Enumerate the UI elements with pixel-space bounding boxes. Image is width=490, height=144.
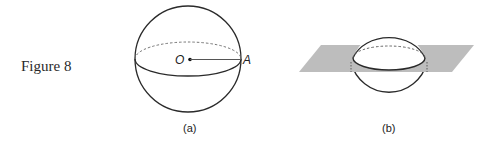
panel-a-sphere: O A (a) bbox=[135, 6, 251, 134]
caption-b: (b) bbox=[382, 122, 395, 134]
point-label-o: O bbox=[175, 53, 184, 67]
figure-diagram: O A (a) (b) bbox=[0, 0, 490, 144]
equator-back-dashed bbox=[135, 42, 241, 59]
equator-front bbox=[135, 59, 241, 76]
point-label-a: A bbox=[242, 53, 251, 67]
caption-a: (a) bbox=[183, 122, 196, 134]
panel-b-sphere-plane: (b) bbox=[299, 32, 474, 134]
